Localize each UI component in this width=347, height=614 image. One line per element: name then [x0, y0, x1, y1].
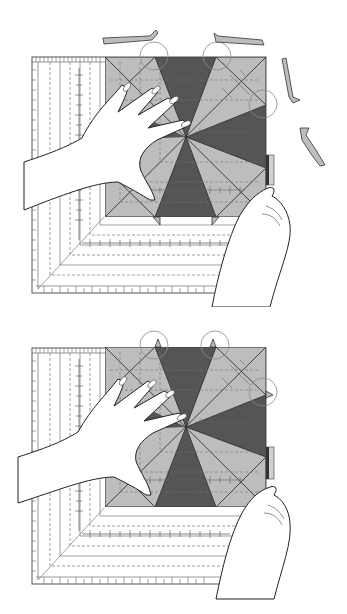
panel-caption: Trimmed block with corners aligned [0, 307, 1, 308]
ruler-edge [266, 155, 274, 185]
ruler-edge [266, 447, 274, 479]
panel-caption: Trim ruler edge; fabric scraps shown cut… [0, 0, 1, 1]
illustration-step-1 [0, 0, 347, 307]
panel-step-2: Trimmed block with corners aligned [0, 307, 347, 614]
illustration-step-2 [0, 307, 347, 614]
panel-step-1: Trim ruler edge; fabric scraps shown cut… [0, 0, 347, 307]
